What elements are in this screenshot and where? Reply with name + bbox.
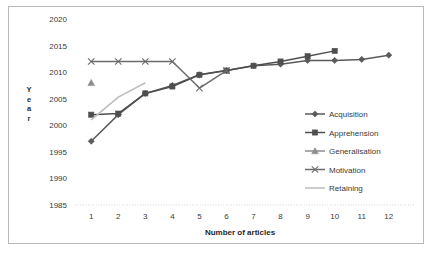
x-tick-label: 12 (384, 212, 393, 221)
chart-legend: AcquisitionApprehensionGeneralisationMot… (305, 110, 381, 193)
y-tick-label: 2005 (49, 95, 67, 104)
x-tick-label: 11 (358, 212, 367, 221)
x-axis-title: Number of articles (205, 228, 276, 237)
y-axis-title-letter: Y (23, 85, 35, 95)
x-tick-label: 10 (330, 212, 339, 221)
legend-label: Generalisation (329, 147, 381, 156)
marker-square (170, 84, 175, 89)
plot-area: 2020201520102005200019951990198512345678… (9, 7, 423, 243)
x-tick-label: 1 (89, 212, 94, 221)
line-chart: 2020201520102005200019951990198512345678… (9, 7, 423, 243)
y-axis-title-letter: r (23, 114, 35, 124)
x-tick-label: 3 (143, 212, 148, 221)
legend-item-acquisition[interactable]: Acquisition (305, 110, 368, 119)
x-tick-label: 5 (197, 212, 202, 221)
y-tick-label: 2000 (49, 121, 67, 130)
marker-triangle (88, 79, 95, 85)
series-motivation (88, 58, 230, 91)
legend-item-apprehension[interactable]: Apprehension (305, 129, 378, 138)
legend-item-generalisation[interactable]: Generalisation (305, 147, 381, 156)
marker-diamond (359, 56, 365, 62)
marker-square (89, 112, 94, 117)
x-tick-label: 6 (224, 212, 229, 221)
x-tick-label: 7 (251, 212, 256, 221)
legend-label: Retaining (329, 184, 363, 193)
legend-item-motivation[interactable]: Motivation (305, 166, 365, 175)
marker-square (251, 63, 256, 68)
marker-square (278, 59, 283, 64)
y-axis-title-letter: e (23, 95, 35, 105)
marker-square (312, 130, 317, 135)
marker-diamond (386, 52, 392, 58)
x-tick-label: 9 (305, 212, 310, 221)
y-tick-label: 2015 (49, 42, 67, 51)
y-tick-label: 1990 (49, 174, 67, 183)
marker-x (196, 85, 202, 91)
y-tick-label: 2020 (49, 15, 67, 24)
y-tick-label: 1995 (49, 148, 67, 157)
marker-diamond (332, 57, 338, 63)
x-tick-label: 2 (116, 212, 121, 221)
y-tick-label: 1985 (49, 201, 67, 210)
x-tick-label: 8 (278, 212, 283, 221)
legend-label: Apprehension (329, 129, 378, 138)
series-line (91, 51, 334, 115)
x-tick-label: 4 (170, 212, 175, 221)
marker-square (305, 54, 310, 59)
marker-square (197, 72, 202, 77)
marker-square (332, 48, 337, 53)
y-axis-title-letter: a (23, 104, 35, 114)
marker-diamond (312, 111, 318, 117)
series-generalisation (88, 79, 95, 85)
series-line (91, 62, 226, 89)
marker-square (143, 91, 148, 96)
y-tick-label: 2010 (49, 68, 67, 77)
legend-label: Motivation (329, 166, 365, 175)
y-axis-title: Y e a r (23, 85, 35, 123)
chart-figure: 2020201520102005200019951990198512345678… (8, 6, 424, 244)
legend-label: Acquisition (329, 110, 368, 119)
marker-square (116, 111, 121, 116)
legend-item-retaining[interactable]: Retaining (305, 184, 363, 193)
series-apprehension (89, 48, 338, 117)
